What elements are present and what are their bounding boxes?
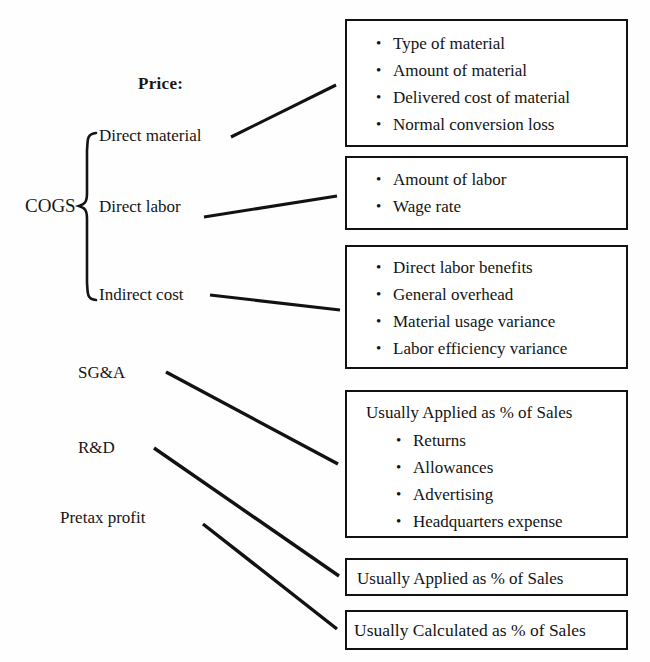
box-headline: Usually Applied as % of Sales xyxy=(366,404,626,421)
price-header-label: Price: xyxy=(138,75,183,92)
bullet-icon: • xyxy=(376,36,381,51)
branch-label-pretax-profit: Pretax profit xyxy=(60,509,145,526)
box-headline: Usually Calculated as % of Sales xyxy=(354,622,626,640)
list-item: •General overhead xyxy=(393,286,626,303)
list-item-text: Headquarters expense xyxy=(413,512,563,531)
bullet-icon: • xyxy=(396,460,401,475)
list-item: •Delivered cost of material xyxy=(393,89,626,106)
list-item-text: Amount of labor xyxy=(393,170,506,189)
bullet-icon: • xyxy=(376,63,381,78)
list-item: •Headquarters expense xyxy=(413,513,626,530)
list-item: •Material usage variance xyxy=(393,313,626,330)
list-item-text: Type of material xyxy=(393,34,505,53)
branch-label-direct-material: Direct material xyxy=(99,127,201,144)
list-item-text: Labor efficiency variance xyxy=(393,339,567,358)
bullet-icon: • xyxy=(396,514,401,529)
bullet-list: •Direct labor benefits •General overhead… xyxy=(393,259,626,357)
list-item: •Normal conversion loss xyxy=(393,116,626,133)
box-indirect-cost-detail: •Direct labor benefits •General overhead… xyxy=(345,245,628,369)
bullet-icon: • xyxy=(396,433,401,448)
bullet-icon: • xyxy=(376,172,381,187)
bullet-icon: • xyxy=(376,199,381,214)
arrow-direct-labor xyxy=(204,196,337,217)
list-item: •Labor efficiency variance xyxy=(393,340,626,357)
bullet-icon: • xyxy=(396,487,401,502)
list-item-text: Advertising xyxy=(413,485,493,504)
list-item: •Amount of labor xyxy=(393,171,626,188)
bullet-icon: • xyxy=(376,260,381,275)
bullet-icon: • xyxy=(376,90,381,105)
list-item-text: Delivered cost of material xyxy=(393,88,570,107)
box-headline: Usually Applied as % of Sales xyxy=(357,570,626,587)
bullet-list: •Type of material •Amount of material •D… xyxy=(393,35,626,133)
arrow-pretax-profit xyxy=(203,524,337,629)
list-item: •Advertising xyxy=(413,486,626,503)
list-item-text: Wage rate xyxy=(393,197,461,216)
list-item-text: General overhead xyxy=(393,285,513,304)
list-item-text: Amount of material xyxy=(393,61,527,80)
list-item-text: Allowances xyxy=(413,458,493,477)
list-item: •Allowances xyxy=(413,459,626,476)
cogs-curly-brace xyxy=(79,133,96,300)
box-direct-material-detail: •Type of material •Amount of material •D… xyxy=(345,19,628,147)
arrow-sga xyxy=(166,372,338,464)
list-item-text: Direct labor benefits xyxy=(393,258,533,277)
diagram-canvas: Price: COGS Direct material Direct labor… xyxy=(0,0,650,662)
bullet-list: •Returns •Allowances •Advertising •Headq… xyxy=(413,432,626,530)
bullet-list: •Amount of labor •Wage rate xyxy=(393,171,626,215)
branch-label-rd: R&D xyxy=(78,439,115,456)
list-item: •Type of material xyxy=(393,35,626,52)
box-rd-detail: Usually Applied as % of Sales xyxy=(345,558,628,596)
box-direct-labor-detail: •Amount of labor •Wage rate xyxy=(345,156,628,230)
box-pretax-profit-detail: Usually Calculated as % of Sales xyxy=(345,610,628,650)
bullet-icon: • xyxy=(376,314,381,329)
list-item-text: Material usage variance xyxy=(393,312,555,331)
arrow-indirect-cost xyxy=(210,295,340,310)
branch-label-indirect-cost: Indirect cost xyxy=(99,286,184,303)
bullet-icon: • xyxy=(376,287,381,302)
arrow-direct-material xyxy=(231,85,336,137)
box-sga-detail: Usually Applied as % of Sales •Returns •… xyxy=(345,390,628,538)
list-item: •Returns xyxy=(413,432,626,449)
branch-label-direct-labor: Direct labor xyxy=(99,198,181,215)
branch-label-sga: SG&A xyxy=(78,364,125,381)
list-item: •Wage rate xyxy=(393,198,626,215)
cogs-root-label: COGS xyxy=(25,196,76,215)
list-item-text: Returns xyxy=(413,431,466,450)
list-item: •Amount of material xyxy=(393,62,626,79)
list-item: •Direct labor benefits xyxy=(393,259,626,276)
bullet-icon: • xyxy=(376,341,381,356)
list-item-text: Normal conversion loss xyxy=(393,115,554,134)
arrow-rd xyxy=(154,448,339,576)
bullet-icon: • xyxy=(376,117,381,132)
